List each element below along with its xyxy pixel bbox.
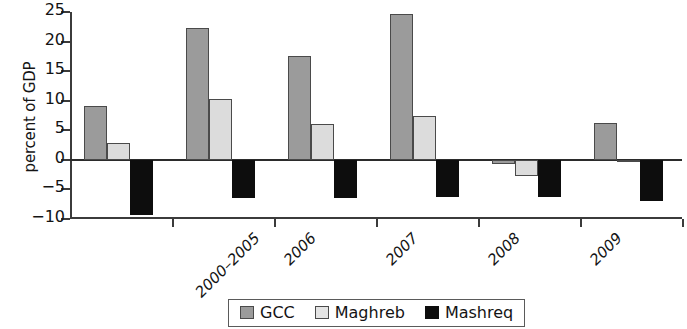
x-tick-mark [682,219,684,227]
y-tick-label: 10 [45,89,65,108]
bar-maghreb-2 [311,124,334,160]
legend-item-mashreq: Mashreq [425,303,513,322]
bar-gcc-4 [492,160,515,164]
x-axis-label-3: 2008 [484,229,524,269]
y-tick-label: 25 [45,0,65,19]
legend-label-maghreb: Maghreb [335,303,405,322]
y-axis-line [70,12,72,219]
plot-area: 2520151050−5−10 [70,12,682,219]
bar-mashreq-0 [130,160,153,215]
bar-maghreb-5 [617,160,640,162]
y-axis-title: percent of GDP [21,27,39,207]
legend-swatch-icon-maghreb [315,306,329,319]
bar-gcc-3 [390,14,413,160]
legend-swatch-icon-mashreq [425,306,439,319]
y-tick-label: 0 [55,148,65,167]
x-axis-label-0: 2000–2005 [191,229,263,301]
bar-maghreb-0 [107,143,130,160]
x-axis-label-1: 2006 [280,229,320,269]
bar-maghreb-3 [413,116,436,160]
legend-item-gcc: GCC [240,303,295,322]
x-tick-mark [580,219,582,227]
bar-maghreb-1 [209,99,232,160]
legend-label-gcc: GCC [260,303,295,322]
bar-maghreb-4 [515,160,538,177]
bar-mashreq-1 [232,160,255,198]
bar-mashreq-5 [640,160,663,201]
y-tick-label: 5 [55,118,65,137]
bar-chart: percent of GDP 2520151050−5−10 2000–2005… [0,0,687,329]
y-tick-label: 15 [45,59,65,78]
x-axis-label-2: 2007 [382,229,422,269]
bar-gcc-0 [84,106,107,160]
bar-gcc-2 [288,56,311,160]
bar-mashreq-3 [436,160,459,197]
y-tick-label: −5 [41,177,65,196]
y-tick-label: 20 [45,30,65,49]
bar-mashreq-4 [538,160,561,197]
x-tick-mark [478,219,480,227]
bar-mashreq-2 [334,160,357,198]
y-tick-label: −10 [31,207,65,226]
legend-item-maghreb: Maghreb [315,303,405,322]
x-tick-mark [376,219,378,227]
legend-swatch-icon-gcc [240,306,254,319]
legend: GCC Maghreb Mashreq [228,299,525,327]
x-tick-mark [274,219,276,227]
zero-baseline [70,159,682,161]
x-tick-mark [172,219,174,227]
x-axis-label-4: 2009 [586,229,626,269]
legend-label-mashreq: Mashreq [445,303,513,322]
bar-gcc-5 [594,123,617,160]
bar-gcc-1 [186,28,209,160]
